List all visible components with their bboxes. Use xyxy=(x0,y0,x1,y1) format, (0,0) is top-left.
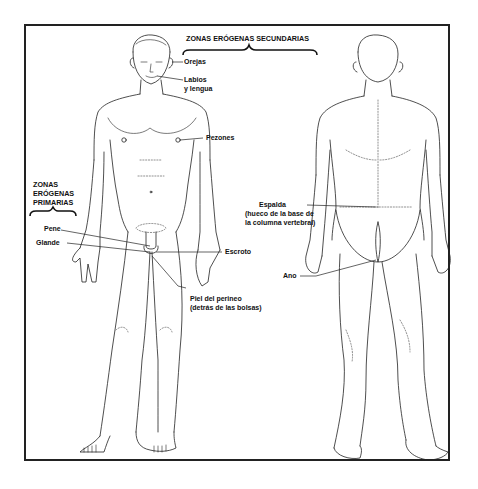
label-perineum-line1: Piel del perineo xyxy=(190,295,242,303)
label-perineum-line2: (detrás de las bolsas) xyxy=(190,304,262,312)
label-back-line1: Espalda xyxy=(259,201,286,209)
leader-lines xyxy=(61,62,376,288)
secondary-brace xyxy=(183,45,317,55)
label-nipples: Pezones xyxy=(206,134,234,142)
label-scrotum: Escroto xyxy=(225,248,251,256)
label-back-line3: la columna vertebral) xyxy=(245,219,315,227)
label-ears: Orejas xyxy=(184,58,206,66)
label-glans: Glande xyxy=(36,239,60,247)
primary-zones-header-line3: PRIMARIAS xyxy=(33,198,73,207)
primary-zones-header-line2: ERÓGENAS xyxy=(33,189,74,198)
label-back-line2: (hueco de la base de xyxy=(245,210,314,218)
back-figure xyxy=(306,35,451,460)
label-anus: Ano xyxy=(283,272,297,280)
label-lips-line1: Labios xyxy=(184,76,207,84)
front-figure xyxy=(73,35,220,452)
anatomy-illustration xyxy=(0,0,478,489)
label-lips-line2: y lengua xyxy=(184,85,212,93)
label-penis: Pene xyxy=(44,225,61,233)
secondary-zones-header: ZONAS ERÓGENAS SECUNDARIAS xyxy=(186,34,309,43)
primary-brace xyxy=(30,207,76,216)
primary-zones-header-line1: ZONAS xyxy=(33,180,58,189)
